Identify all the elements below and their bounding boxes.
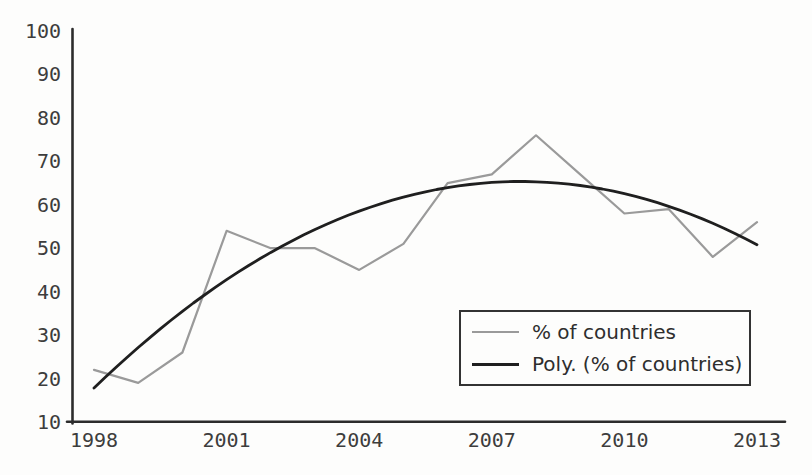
legend-item-poly-trendline: Poly. (% of countries) [472, 352, 749, 376]
y-tick-label: 40 [37, 280, 61, 304]
y-tick-label: 80 [37, 106, 61, 130]
legend-label-poly-trendline: Poly. (% of countries) [532, 352, 742, 376]
line-chart: 1020304050607080901001998200120042007201… [0, 0, 812, 475]
x-tick-label: 2004 [335, 428, 383, 452]
y-tick-label: 60 [37, 193, 61, 217]
x-tick-label: 1998 [70, 428, 118, 452]
y-tick-label: 50 [37, 236, 61, 260]
x-tick-label: 2013 [733, 428, 781, 452]
x-tick-label: 2001 [203, 428, 251, 452]
y-tick-label: 30 [37, 323, 61, 347]
legend-label-percent-of-countries: % of countries [532, 320, 676, 344]
y-tick-label: 70 [37, 149, 61, 173]
x-tick-label: 2010 [600, 428, 648, 452]
y-tick-label: 10 [37, 410, 61, 434]
trendline-swatch [472, 363, 519, 366]
y-tick-label: 90 [37, 62, 61, 86]
legend-item-percent-of-countries: % of countries [472, 320, 749, 344]
series-line-swatch [472, 331, 519, 333]
y-tick-label: 20 [37, 367, 61, 391]
chart-legend: % of countries Poly. (% of countries) [459, 310, 751, 386]
y-tick-label: 100 [25, 19, 61, 43]
chart-figure: 1020304050607080901001998200120042007201… [0, 0, 812, 475]
x-tick-label: 2007 [468, 428, 516, 452]
